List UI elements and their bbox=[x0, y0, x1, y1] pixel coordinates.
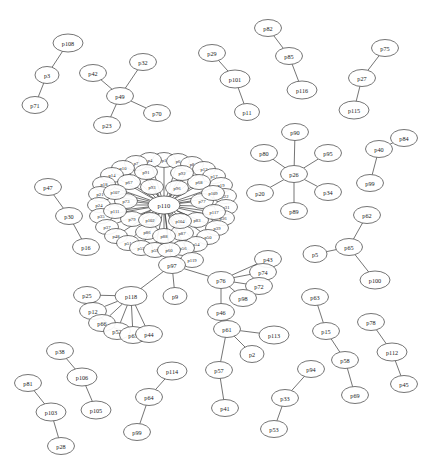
graph-node[interactable]: p104 bbox=[169, 214, 192, 229]
graph-node[interactable]: p46 bbox=[208, 304, 235, 321]
node-label: p30 bbox=[64, 213, 73, 220]
graph-node[interactable]: p30 bbox=[56, 208, 83, 225]
graph-node[interactable]: p88 bbox=[153, 229, 176, 244]
node-label: p86 bbox=[144, 230, 152, 235]
graph-node[interactable]: p105 bbox=[81, 401, 111, 419]
graph-node[interactable]: p94 bbox=[298, 361, 325, 378]
graph-node[interactable]: p58 bbox=[332, 352, 359, 369]
graph-edge bbox=[120, 305, 127, 323]
graph-node[interactable]: p45 bbox=[391, 376, 418, 393]
graph-node[interactable]: p78 bbox=[358, 314, 385, 331]
node-label: p94 bbox=[306, 366, 315, 373]
graph-node[interactable]: p23 bbox=[94, 117, 121, 134]
graph-node[interactable]: p109 bbox=[202, 186, 225, 201]
graph-node[interactable]: p62 bbox=[354, 207, 381, 224]
graph-node[interactable]: p44 bbox=[136, 326, 163, 343]
graph-node[interactable]: p64 bbox=[136, 389, 163, 406]
node-label: p76 bbox=[216, 277, 225, 284]
node-label: p98 bbox=[238, 295, 247, 302]
graph-node[interactable]: p15 bbox=[313, 323, 340, 340]
node-label: p43 bbox=[263, 256, 272, 263]
graph-node[interactable]: p53 bbox=[261, 421, 288, 438]
graph-edge bbox=[270, 180, 284, 188]
graph-node[interactable]: p70 bbox=[144, 105, 171, 122]
graph-node[interactable]: p42 bbox=[80, 65, 107, 82]
graph-node[interactable]: p101 bbox=[220, 70, 250, 88]
graph-node[interactable]: p112 bbox=[377, 343, 407, 361]
graph-node[interactable]: p89 bbox=[281, 203, 308, 220]
graph-node[interactable]: p97 bbox=[159, 257, 186, 274]
graph-node[interactable]: p116 bbox=[287, 81, 317, 99]
graph-node[interactable]: p26 bbox=[281, 166, 308, 183]
graph-node[interactable]: p92 bbox=[171, 166, 194, 181]
graph-node[interactable]: p57 bbox=[206, 362, 233, 379]
graph-node[interactable]: p99 bbox=[124, 424, 151, 441]
node-label: p20 bbox=[255, 190, 264, 197]
graph-edge bbox=[125, 70, 137, 88]
graph-node[interactable]: p69 bbox=[342, 387, 369, 404]
graph-node[interactable]: p113 bbox=[259, 326, 289, 344]
graph-edge bbox=[376, 330, 386, 344]
graph-node[interactable]: p117 bbox=[203, 205, 226, 220]
graph-node[interactable]: p96 bbox=[166, 181, 189, 196]
graph-node[interactable]: p98 bbox=[230, 290, 257, 307]
graph-node[interactable]: p107 bbox=[104, 185, 127, 200]
graph-edge bbox=[173, 273, 174, 287]
graph-node[interactable]: p32 bbox=[130, 54, 157, 71]
graph-node[interactable]: p82 bbox=[255, 20, 282, 37]
graph-node[interactable]: p100 bbox=[360, 271, 390, 289]
graph-node[interactable]: p111 bbox=[104, 204, 127, 219]
graph-node[interactable]: p106 bbox=[67, 368, 97, 386]
graph-node[interactable]: p108 bbox=[53, 34, 83, 52]
graph-node[interactable]: p90 bbox=[282, 124, 309, 141]
graph-node[interactable]: p38 bbox=[47, 343, 74, 360]
graph-node[interactable]: p114 bbox=[157, 362, 187, 380]
graph-node[interactable]: p16 bbox=[73, 239, 100, 256]
graph-node[interactable]: p99 bbox=[357, 175, 384, 192]
graph-node[interactable]: p28 bbox=[48, 438, 75, 455]
graph-node[interactable]: p93 bbox=[141, 180, 164, 195]
network-graph-canvas: p108p3p71p42p32p49p23p70p29p101p11p82p85… bbox=[0, 0, 435, 468]
graph-node[interactable]: p49 bbox=[107, 88, 134, 105]
graph-node[interactable]: p75 bbox=[372, 40, 399, 57]
graph-node[interactable]: p5 bbox=[303, 246, 327, 263]
graph-edge bbox=[292, 64, 298, 81]
graph-node[interactable]: p63 bbox=[302, 289, 329, 306]
graph-node[interactable]: p95 bbox=[315, 145, 342, 162]
graph-node[interactable]: p61 bbox=[214, 321, 241, 338]
graph-node[interactable]: p47 bbox=[35, 179, 62, 196]
graph-node[interactable]: p65 bbox=[336, 239, 363, 256]
graph-node[interactable]: p11 bbox=[235, 104, 260, 121]
node-label: p103 bbox=[45, 409, 57, 416]
graph-node[interactable]: p2 bbox=[240, 346, 264, 363]
graph-node[interactable]: p102 bbox=[139, 213, 162, 228]
graph-node[interactable]: p3 bbox=[35, 67, 59, 84]
graph-node[interactable]: p9 bbox=[163, 288, 187, 305]
graph-edge bbox=[54, 195, 64, 209]
graph-node[interactable]: p110 bbox=[148, 196, 180, 214]
graph-node[interactable]: p29 bbox=[199, 45, 226, 62]
graph-node[interactable]: p76 bbox=[208, 272, 235, 289]
node-label: p16 bbox=[81, 244, 90, 251]
graph-node[interactable]: p80 bbox=[251, 145, 278, 162]
graph-node[interactable]: p118 bbox=[115, 287, 147, 306]
graph-node[interactable]: p34 bbox=[315, 184, 342, 201]
graph-node[interactable]: p27 bbox=[349, 70, 376, 87]
graph-node[interactable]: p71 bbox=[22, 97, 48, 114]
graph-edge bbox=[156, 379, 165, 390]
graph-node[interactable]: p20 bbox=[247, 185, 274, 202]
graph-node[interactable]: p85 bbox=[276, 48, 303, 65]
graph-edge bbox=[355, 255, 369, 272]
graph-edge bbox=[229, 287, 235, 292]
graph-node[interactable]: p25 bbox=[74, 287, 101, 304]
graph-node[interactable]: p91 bbox=[135, 165, 158, 180]
graph-node[interactable]: p81 bbox=[15, 375, 42, 392]
graph-node[interactable]: p103 bbox=[36, 403, 66, 421]
graph-node[interactable]: p84 bbox=[391, 130, 418, 147]
graph-node[interactable]: p41 bbox=[212, 400, 239, 417]
graph-node[interactable]: p33 bbox=[272, 390, 299, 407]
graph-node[interactable]: p60 bbox=[158, 243, 181, 258]
graph-node[interactable]: p115 bbox=[339, 101, 369, 119]
graph-node[interactable]: p40 bbox=[366, 141, 393, 158]
node-label: p70 bbox=[152, 110, 161, 117]
